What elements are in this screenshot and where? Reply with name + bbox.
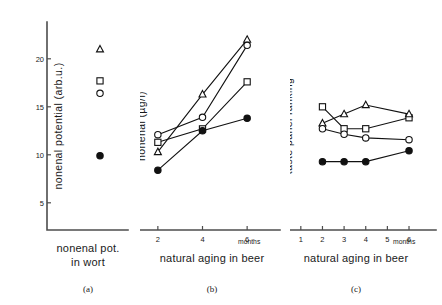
data-point-circle-open	[244, 42, 250, 48]
panel-a-caption: (a)	[83, 284, 93, 294]
panel-a-y-ticks: 5101520	[36, 55, 51, 208]
x-tick-label: 2	[320, 235, 324, 244]
panel-b: 0.050.100.150.20 246 nonenal (µg/l) mont…	[140, 0, 290, 305]
panel-c-x-unit-label: months	[393, 238, 416, 245]
panel-b-x-unit-label: months	[238, 238, 261, 245]
data-point-circle-filled	[155, 167, 161, 173]
figure-panels: 5101520 nonenal potential (arb.u.) nonen…	[0, 0, 442, 305]
x-tick-label: 2	[156, 235, 160, 244]
panel-a: 5101520 nonenal potential (arb.u.) nonen…	[0, 0, 140, 305]
data-point-square-open	[363, 126, 369, 132]
panel-c-series	[319, 101, 413, 165]
data-point-triangle-open	[97, 45, 104, 52]
data-point-circle-open	[319, 126, 325, 132]
y-tick-label: 15	[36, 103, 44, 112]
data-point-square-open	[319, 104, 325, 110]
data-point-circle-open	[341, 131, 347, 137]
panel-a-x-axis-label-line2: in wort	[71, 256, 105, 268]
data-point-triangle-open	[362, 101, 369, 108]
panel-b-x-ticks: 246	[156, 226, 249, 244]
x-tick-label: 4	[200, 235, 204, 244]
data-point-circle-open	[406, 137, 412, 143]
panel-c-plot: 246810 123456 taste panel ranking months…	[290, 0, 442, 305]
data-point-circle-open	[199, 114, 205, 120]
data-point-circle-filled	[363, 158, 369, 164]
data-point-square-open	[155, 139, 161, 145]
data-point-circle-open	[363, 135, 369, 141]
x-tick-label: 4	[364, 235, 368, 244]
data-point-circle-filled	[244, 115, 250, 121]
panel-b-plot: 0.050.100.150.20 246 nonenal (µg/l) mont…	[140, 0, 290, 305]
panel-c-x-axis-label: natural aging in beer	[304, 252, 409, 264]
panel-a-y-axis-title: nonenal potential (arb.u.)	[52, 62, 64, 189]
data-point-circle-filled	[199, 128, 205, 134]
panel-b-y-axis-title: nonenal (µg/l)	[140, 91, 147, 161]
x-tick-label: 5	[385, 235, 389, 244]
data-point-circle-open	[155, 131, 161, 137]
y-tick-label: 20	[36, 55, 44, 64]
data-point-circle-filled	[319, 158, 325, 164]
panel-c-y-axis-title: taste panel ranking	[290, 78, 294, 174]
data-point-circle-filled	[341, 158, 347, 164]
panel-b-series	[154, 36, 250, 174]
data-point-circle-open	[97, 90, 103, 96]
panel-c-caption: (c)	[351, 284, 361, 294]
panel-b-caption: (b)	[207, 284, 218, 294]
y-tick-label: 10	[36, 151, 44, 160]
panel-a-plot: 5101520 nonenal potential (arb.u.) nonen…	[0, 0, 140, 305]
data-point-triangle-open	[244, 36, 251, 43]
data-point-square-open	[97, 78, 103, 84]
y-tick-label: 5	[40, 199, 44, 208]
panel-a-x-axis-label-line1: nonenal pot.	[57, 242, 120, 254]
data-point-circle-filled	[97, 153, 103, 159]
x-tick-label: 3	[342, 235, 346, 244]
data-point-square-open	[244, 79, 250, 85]
panel-b-axis	[140, 22, 280, 230]
panel-a-data-points	[97, 45, 104, 159]
data-point-circle-filled	[406, 147, 412, 153]
panel-c: 246810 123456 taste panel ranking months…	[290, 0, 442, 305]
panel-b-x-axis-label: natural aging in beer	[160, 252, 265, 264]
x-tick-label: 1	[299, 235, 303, 244]
